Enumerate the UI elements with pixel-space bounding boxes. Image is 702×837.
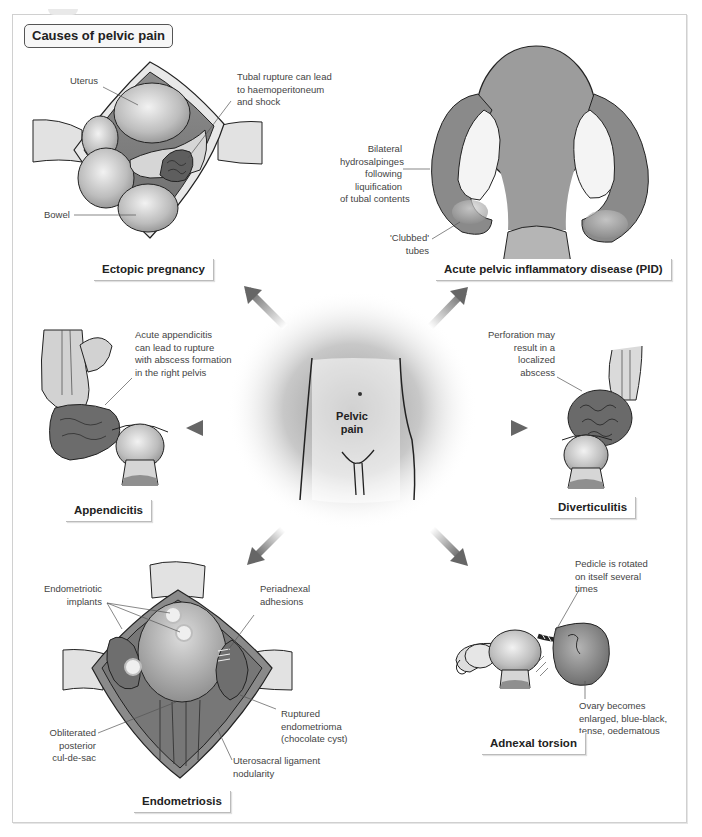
- label-uterus: Uterus: [70, 75, 98, 88]
- note-line: on itself several: [575, 571, 648, 584]
- note-line: tense, oedematous: [579, 725, 667, 738]
- note-line: to haemoperitoneum: [237, 84, 332, 97]
- label-endometriotic-implants: Endometriotic implants: [30, 583, 102, 608]
- pid-illustration: [403, 46, 648, 270]
- caption-adnexal-torsion: Adnexal torsion: [482, 733, 586, 755]
- note-line: can lead to rupture: [135, 342, 232, 355]
- note-line: endometrioma: [281, 721, 348, 734]
- note-line: Endometriotic: [30, 583, 102, 596]
- note-line: and shock: [237, 96, 332, 109]
- caption-appendicitis: Appendicitis: [66, 500, 152, 522]
- caption-pid: Acute pelvic inflammatory disease (PID): [436, 259, 672, 281]
- note-line: following: [340, 168, 402, 181]
- arrow-to-diverticulitis: [470, 420, 528, 436]
- note-line: tubes: [380, 245, 429, 258]
- note-line: Ovary becomes: [579, 700, 667, 713]
- note-line: Obliterated: [30, 727, 96, 740]
- note-line: Perforation may: [480, 329, 555, 342]
- caption-ectopic-pregnancy: Ectopic pregnancy: [94, 259, 214, 281]
- note-line: adhesions: [260, 596, 310, 609]
- label-obliterated-cul-de-sac: Obliterated posterior cul-de-sac: [30, 727, 96, 765]
- note-line: enlarged, blue-black,: [579, 713, 667, 726]
- note-line: liquification: [340, 181, 402, 194]
- label-ovary-enlarged: Ovary becomes enlarged, blue-black, tens…: [579, 700, 667, 738]
- arrow-to-ectopic: [244, 286, 285, 327]
- note-line: Uterosacral ligament: [233, 755, 320, 768]
- label-uterosacral-nodularity: Uterosacral ligament nodularity: [233, 755, 320, 780]
- note-line: localized: [480, 354, 555, 367]
- note-line: cul-de-sac: [30, 752, 96, 765]
- arrow-to-endometriosis: [247, 529, 283, 565]
- diverticulitis-illustration: [557, 346, 642, 488]
- label-bowel: Bowel: [44, 209, 70, 222]
- label-periadnexal-adhesions: Periadnexal adhesions: [260, 583, 310, 608]
- center-label-line-1: Pelvic: [330, 410, 374, 423]
- arrow-to-torsion: [432, 529, 468, 566]
- label-clubbed-tubes: 'Clubbed' tubes: [380, 232, 429, 257]
- note-line: abscess: [480, 367, 555, 380]
- note-line: hydrosalpinges: [340, 156, 402, 169]
- label-tubal-rupture: Tubal rupture can lead to haemoperitoneu…: [237, 71, 332, 109]
- note-line: 'Clubbed': [380, 232, 429, 245]
- note-line: result in a: [480, 342, 555, 355]
- note-line: nodularity: [233, 768, 320, 781]
- note-line: Tubal rupture can lead: [237, 71, 332, 84]
- adnexal-torsion-illustration: [456, 590, 609, 699]
- caption-endometriosis: Endometriosis: [134, 791, 231, 813]
- caption-diverticulitis: Diverticulitis: [550, 497, 636, 519]
- label-hydrosalpinges: Bilateral hydrosalpinges following liqui…: [340, 143, 402, 206]
- note-line: Acute appendicitis: [135, 329, 232, 342]
- note-line: implants: [30, 596, 102, 609]
- label-ruptured-endometrioma: Ruptured endometrioma (chocolate cyst): [281, 708, 348, 746]
- arrow-to-pid: [430, 287, 468, 327]
- label-diverticulitis-note: Perforation may result in a localized ab…: [480, 329, 555, 379]
- navel-icon: [358, 392, 362, 396]
- note-line: posterior: [30, 740, 96, 753]
- note-line: times: [575, 583, 648, 596]
- center-label: Pelvic pain: [330, 410, 374, 436]
- note-line: (chocolate cyst): [281, 733, 348, 746]
- center-label-line-2: pain: [330, 423, 374, 436]
- note-line: with abscess formation: [135, 354, 232, 367]
- note-line: in the right pelvis: [135, 367, 232, 380]
- note-line: of tubal contents: [340, 193, 402, 206]
- note-line: Pedicle is rotated: [575, 558, 648, 571]
- note-line: Periadnexal: [260, 583, 310, 596]
- label-appendicitis-note: Acute appendicitis can lead to rupture w…: [135, 329, 232, 379]
- label-pedicle-rotated: Pedicle is rotated on itself several tim…: [575, 558, 648, 596]
- note-line: Ruptured: [281, 708, 348, 721]
- note-line: Bilateral: [340, 143, 402, 156]
